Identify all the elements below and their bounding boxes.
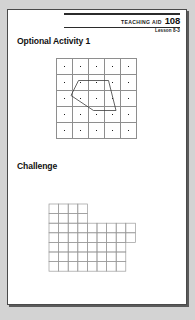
dot-grid-cell (89, 75, 105, 91)
grid-dot (112, 130, 114, 132)
dot-grid-row (57, 75, 137, 91)
shape-cell (116, 233, 126, 243)
grid-dot (112, 82, 114, 84)
shape-cell (97, 262, 107, 272)
shape-cell (49, 223, 59, 233)
dot-grid-cell (57, 91, 73, 107)
shape-cell (97, 233, 107, 243)
dot-grid-cell (89, 123, 105, 139)
dot-grid-cell (73, 91, 89, 107)
grid-dot (64, 66, 66, 68)
dot-grid-cell (73, 75, 89, 91)
dot-grid-cell (105, 75, 121, 91)
dot-grid-cell (57, 107, 73, 123)
shape-cell (97, 223, 107, 233)
dot-grid-cell (105, 59, 121, 75)
shape-cell (49, 204, 59, 214)
dot-grid-cell (89, 107, 105, 123)
shape-cell (59, 262, 69, 272)
teaching-aid-line: TEACHING AID 108 (64, 16, 180, 26)
shape-cell (87, 233, 97, 243)
shape-cell (59, 252, 69, 262)
shape-cell (87, 242, 97, 252)
shape-cell (78, 214, 88, 224)
dot-grid-row (57, 91, 137, 107)
shape-cell (78, 242, 88, 252)
grid-dot (64, 98, 66, 100)
grid-dot (64, 114, 66, 116)
grid-dot (112, 66, 114, 68)
grid-dot (80, 82, 82, 84)
dot-grid-cell (121, 107, 137, 123)
shape-cell (78, 252, 88, 262)
worksheet-page: TEACHING AID 108 Lesson 8-3 Optional Act… (7, 9, 187, 305)
dot-grid-cell (57, 59, 73, 75)
dot-grid-row (57, 107, 137, 123)
grid-dot (96, 114, 98, 116)
shape-cell (68, 262, 78, 272)
teaching-aid-label: TEACHING AID (121, 20, 162, 25)
shape-cell (68, 233, 78, 243)
grid-dot (96, 82, 98, 84)
shape-cell (78, 204, 88, 214)
shape-cell (116, 252, 126, 262)
dot-grid-cell (89, 59, 105, 75)
shape-cell (59, 233, 69, 243)
dot-grid-cell (73, 107, 89, 123)
teaching-aid-number: 108 (165, 16, 180, 26)
shape-cell (116, 262, 126, 272)
shape-cell (107, 233, 117, 243)
grid-dot (80, 130, 82, 132)
dot-grid-cell (73, 123, 89, 139)
section-title-optional-activity: Optional Activity 1 (17, 36, 90, 46)
shape-cell (107, 223, 117, 233)
grid-dot (64, 82, 66, 84)
dot-grid-cell (57, 123, 73, 139)
grid-dot (128, 82, 130, 84)
shape-cell (87, 252, 97, 262)
shape-cell (68, 242, 78, 252)
grid-dot (96, 66, 98, 68)
shape-cell (68, 204, 78, 214)
dot-grid-figure (56, 58, 137, 139)
dot-grid-table (56, 58, 137, 139)
shape-cell (59, 214, 69, 224)
grid-dot (80, 66, 82, 68)
dot-grid-cell (121, 59, 137, 75)
dot-grid-cell (105, 91, 121, 107)
shape-cell (68, 214, 78, 224)
shape-cell (87, 262, 97, 272)
shape-cell (59, 204, 69, 214)
section-title-challenge: Challenge (17, 161, 57, 171)
dot-grid-cell (57, 75, 73, 91)
shape-cell (78, 233, 88, 243)
shape-cell (126, 223, 136, 233)
dot-grid-cell (89, 91, 105, 107)
dot-grid-cell (105, 107, 121, 123)
shape-cell (49, 252, 59, 262)
shape-cell (97, 252, 107, 262)
grid-dot (128, 130, 130, 132)
shape-cell (107, 262, 117, 272)
dot-grid-cell (105, 123, 121, 139)
shape-cell (107, 242, 117, 252)
dot-grid-row (57, 59, 137, 75)
shape-cell (49, 242, 59, 252)
grid-dot (64, 130, 66, 132)
shape-cell (68, 252, 78, 262)
challenge-shape-grid (48, 203, 136, 272)
shape-cell (116, 242, 126, 252)
shape-cell (116, 223, 126, 233)
grid-dot (128, 98, 130, 100)
dot-grid-cell (121, 75, 137, 91)
shape-cell (68, 223, 78, 233)
grid-dot (112, 98, 114, 100)
shape-cell (97, 242, 107, 252)
shape-cell (49, 262, 59, 272)
shape-cell (59, 242, 69, 252)
challenge-shape-figure (48, 203, 136, 272)
shape-cell (59, 223, 69, 233)
dot-grid-row (57, 123, 137, 139)
shape-cell (49, 214, 59, 224)
dot-grid-cell (73, 59, 89, 75)
